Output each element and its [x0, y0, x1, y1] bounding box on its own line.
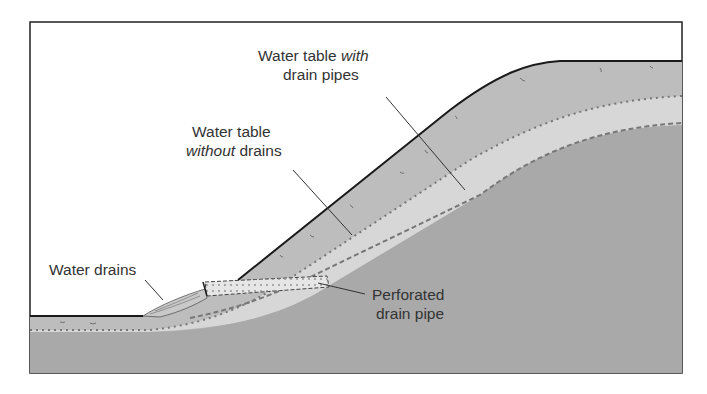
label-text: drain pipe	[372, 305, 444, 322]
label-text: Water table	[258, 47, 341, 64]
label-text: Water table	[186, 123, 271, 140]
label-text: Perforated	[372, 286, 444, 303]
label-text: Water drains	[49, 261, 136, 278]
label-text: drain pipes	[258, 66, 359, 83]
label-water-table-without-drains: Water table without drains	[186, 122, 282, 160]
label-water-table-with-drains: Water table with drain pipes	[258, 46, 369, 84]
label-text-italic: with	[341, 47, 369, 64]
label-text: drains	[235, 142, 282, 159]
label-text-italic: without	[186, 142, 235, 159]
label-perforated-pipe: Perforated drain pipe	[372, 285, 444, 323]
label-water-drains: Water drains	[49, 260, 136, 279]
